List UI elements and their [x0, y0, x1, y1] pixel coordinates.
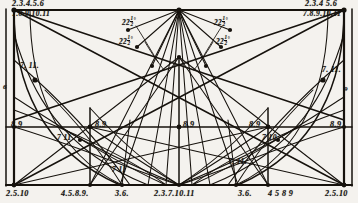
degree-sign: ° — [131, 36, 134, 42]
degree-sign: ° — [134, 17, 137, 23]
label-bottom-3-6-right: 3.6. — [238, 190, 252, 198]
degree-sign: ° — [226, 17, 229, 23]
label-mid-8-9-b: 8.9 — [95, 121, 106, 129]
label-top-right-upper: 2.3.4 5.6 — [305, 0, 337, 8]
label-top-right-lower: 7.8.9.10.11 — [303, 10, 341, 18]
angle-value: 22 — [119, 37, 127, 46]
label-bottom-2-5-10-right: 2.5.10 — [325, 190, 348, 198]
label-node-7-10-mid-right: 7 10 — [262, 134, 277, 142]
label-angle-left-outer: 2212° — [122, 16, 136, 27]
label-top-left-lower: 7.8.9.10.11 — [12, 10, 50, 18]
label-bottom-4-5-8-9-left: 4.5.8.9. — [61, 190, 89, 198]
label-node-7-11-mid-left: 7 11 — [57, 134, 71, 142]
label-bottom-4-5-8-9-right: 4 5 8 9 — [268, 190, 293, 198]
label-node-7-11-upper-left: 7. 11. — [20, 62, 39, 70]
label-bottom-center: 2.3.7.10.11 — [154, 190, 195, 198]
label-bottom-2-5-10-left: 2.5.10 — [6, 190, 29, 198]
label-top-left-upper: 2.3.4.5.6 — [12, 0, 44, 8]
angle-value: 22 — [122, 18, 130, 27]
degree-sign: ° — [228, 36, 231, 42]
label-angle-right-outer: 2212° — [214, 16, 228, 27]
label-mid-8-9-c: 8.9 — [183, 121, 194, 129]
label-node-6-left: 6 — [3, 84, 7, 91]
label-node-7-11-low-far: 7. 11. — [228, 158, 247, 166]
drawing-page: .ln { stroke:#16120d; fill:none; stroke-… — [0, 0, 358, 203]
label-node-9-right: 9 — [344, 86, 348, 93]
angle-value: 22 — [216, 37, 224, 46]
label-mid-8-9-a: 8.9 — [11, 121, 22, 129]
label-node-7-11-upper-right: 7. 11. — [322, 66, 341, 74]
label-node-7-11-low-left: 7 11 — [112, 166, 126, 174]
drawing-canvas: .ln { stroke:#16120d; fill:none; stroke-… — [0, 0, 358, 203]
label-mid-8-9-d: 8.9 — [249, 121, 260, 129]
construction-diagram: .ln { stroke:#16120d; fill:none; stroke-… — [0, 0, 358, 203]
label-mid-8-9-e: 8.9 — [330, 121, 341, 129]
angle-value: 22 — [214, 18, 222, 27]
label-angle-left-inner: 2212° — [119, 35, 133, 46]
label-bottom-3-6-left: 3.6. — [115, 190, 129, 198]
label-angle-right-inner: 2212° — [216, 35, 230, 46]
